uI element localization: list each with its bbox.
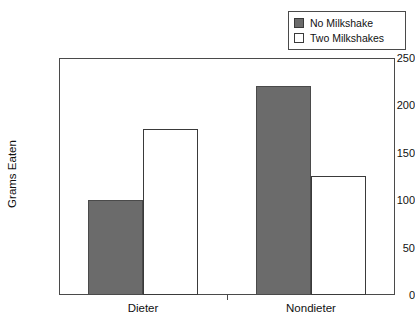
legend-swatch-filled-icon [294,18,304,28]
x-axis-label-dieter: Dieter [128,302,159,314]
legend-label-no-milkshake: No Milkshake [310,17,373,29]
legend-swatch-empty-icon [294,33,304,43]
x-tick-mark-center [227,295,228,300]
bar-dieter-two-milkshakes [143,129,198,295]
bar-nondieter-no-milkshake [256,86,311,295]
bar-nondieter-two-milkshakes [311,176,366,295]
bar-dieter-no-milkshake [88,200,143,295]
legend-item-no-milkshake: No Milkshake [294,15,400,30]
x-axis-label-nondieter: Nondieter [286,302,336,314]
legend-item-two-milkshakes: Two Milkshakes [294,30,400,45]
y-axis-title: Grams Eaten [6,124,18,224]
bar-chart: No Milkshake Two Milkshakes Grams Eaten … [0,0,415,326]
legend-label-two-milkshakes: Two Milkshakes [310,32,384,44]
bars-layer [59,58,395,295]
chart-legend: No Milkshake Two Milkshakes [288,11,406,50]
